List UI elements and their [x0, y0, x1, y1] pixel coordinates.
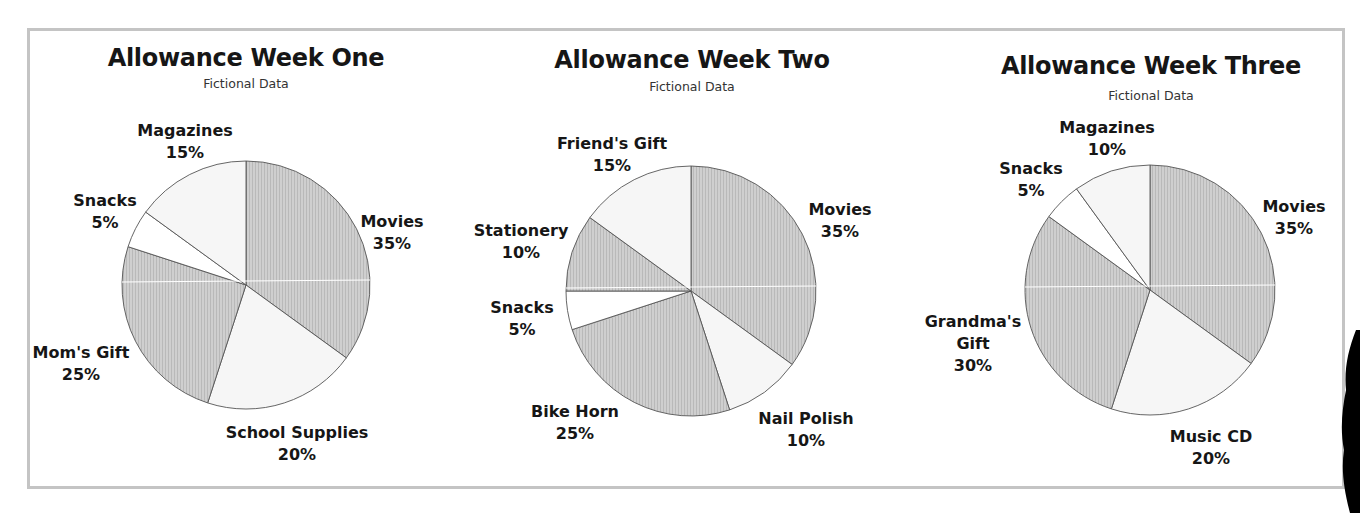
chart-subtitle: Fictional Data	[649, 79, 735, 94]
slice-label-music-cd: Music CD20%	[1170, 426, 1252, 470]
pie-chart	[0, 0, 1, 1]
slice-label-snacks: Snacks5%	[490, 297, 553, 341]
slice-label-school-supplies: School Supplies20%	[226, 422, 369, 466]
chart-subtitle: Fictional Data	[203, 76, 289, 91]
slice-label-magazines: Magazines10%	[1059, 117, 1155, 161]
slice-label-nail-polish: Nail Polish10%	[758, 408, 853, 452]
slice-label-grandmas-gift: Grandma'sGift30%	[925, 311, 1022, 377]
slice-label-snacks: Snacks5%	[73, 190, 136, 234]
slice-label-movies: Movies35%	[360, 211, 423, 255]
slice-label-movies: Movies35%	[1262, 196, 1325, 240]
chart-subtitle: Fictional Data	[1108, 88, 1194, 103]
slice-label-bike-horn: Bike Horn25%	[531, 401, 619, 445]
slice-label-magazines: Magazines15%	[137, 120, 233, 164]
chart-title: Allowance Week One	[108, 44, 385, 72]
slice-label-friends-gift: Friend's Gift15%	[557, 133, 667, 177]
slice-label-stationery: Stationery10%	[474, 220, 569, 264]
slice-label-moms-gift: Mom's Gift25%	[33, 342, 130, 386]
chart-title: Allowance Week Three	[1001, 52, 1301, 80]
slice-label-snacks: Snacks5%	[999, 158, 1062, 202]
slice-label-movies: Movies35%	[808, 199, 871, 243]
ink-smudge	[1338, 330, 1360, 513]
chart-title: Allowance Week Two	[554, 46, 829, 74]
